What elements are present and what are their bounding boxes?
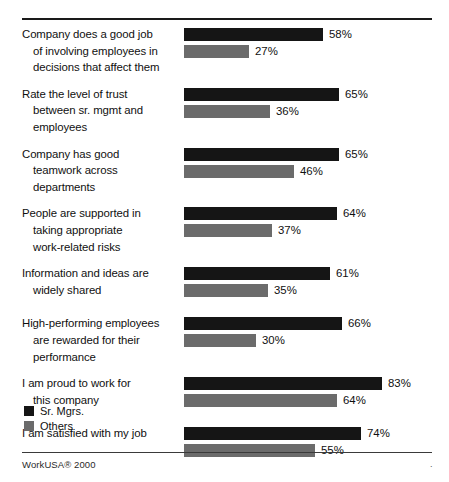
bar-row: 30%: [184, 334, 449, 347]
bar-value-label: 66%: [348, 315, 371, 331]
top-divider-rule: [22, 18, 432, 20]
legend-item[interactable]: Sr. Mgrs.: [24, 404, 84, 419]
bottom-divider-rule: [22, 452, 432, 453]
bar-sr-mgrs: [184, 267, 330, 280]
bar-sr-mgrs: [184, 207, 337, 220]
legend-item-label: Sr. Mgrs.: [40, 404, 84, 419]
bar-value-label: 64%: [343, 205, 366, 221]
bar-sr-mgrs: [184, 28, 323, 41]
bar-group-label-line: between sr. mgmt and: [22, 102, 180, 119]
bar-value-label: 36%: [276, 103, 299, 119]
bar-row: 58%: [184, 28, 449, 41]
bar-value-label: 58%: [329, 26, 352, 42]
bar-group-label-line: Company has good: [22, 146, 180, 163]
bar-others: [184, 45, 249, 58]
bar-value-label: 55%: [321, 442, 344, 458]
bar-group-label-line: decisions that affect them: [22, 59, 180, 76]
bar-sr-mgrs: [184, 377, 382, 390]
bar-group-label-line: are rewarded for their: [22, 332, 180, 349]
bar-group-label-line: People are supported in: [22, 205, 180, 222]
bar-others: [184, 284, 268, 297]
bar-others: [184, 444, 315, 457]
legend-swatch-icon: [24, 421, 34, 431]
bar-group-label-line: taking appropriate: [22, 222, 180, 239]
source-note: WorkUSA® 2000: [22, 459, 96, 470]
bar-value-label: 61%: [336, 265, 359, 281]
bar-row: 64%: [184, 207, 449, 220]
bar-row: 74%: [184, 427, 449, 440]
bar-row: 66%: [184, 317, 449, 330]
bar-others: [184, 224, 272, 237]
bar-group-label: People are supported intaking appropriat…: [22, 205, 180, 255]
bar-row: 83%: [184, 377, 449, 390]
bar-group-label-line: Company does a good job: [22, 26, 180, 43]
bar-row: 65%: [184, 88, 449, 101]
bar-others: [184, 105, 270, 118]
bar-group-label: Company does a good jobof involving empl…: [22, 26, 180, 76]
bar-value-label: 46%: [300, 163, 323, 179]
bar-group-label: Company has goodteamwork acrossdepartmen…: [22, 146, 180, 196]
bar-value-label: 65%: [345, 86, 368, 102]
bar-group-label-line: Rate the level of trust: [22, 86, 180, 103]
bar-value-label: 35%: [274, 282, 297, 298]
bar-value-label: 30%: [262, 332, 285, 348]
legend-item[interactable]: Others: [24, 419, 84, 434]
bar-sr-mgrs: [184, 148, 339, 161]
bar-row: 37%: [184, 224, 449, 237]
legend-swatch-icon: [24, 406, 34, 416]
bar-row: 55%: [184, 444, 449, 457]
bar-sr-mgrs: [184, 88, 339, 101]
bar-row: 64%: [184, 394, 449, 407]
bar-group-label-line: performance: [22, 349, 180, 366]
bar-value-label: 64%: [343, 392, 366, 408]
bar-others: [184, 165, 294, 178]
bar-group-label: Rate the level of trustbetween sr. mgmt …: [22, 86, 180, 136]
bar-row: 65%: [184, 148, 449, 161]
bar-group-label-line: departments: [22, 179, 180, 196]
bar-row: 35%: [184, 284, 449, 297]
bar-sr-mgrs: [184, 427, 361, 440]
bar-group-label-line: work-related risks: [22, 239, 180, 256]
legend-item-label: Others: [40, 419, 73, 434]
bar-others: [184, 334, 256, 347]
bar-sr-mgrs: [184, 317, 342, 330]
chart-figure: Company does a good jobof involving empl…: [0, 0, 449, 482]
bar-value-label: 83%: [388, 375, 411, 391]
bar-group-label-line: Information and ideas are: [22, 265, 180, 282]
bar-value-label: 37%: [278, 222, 301, 238]
bar-group-label: High-performing employeesare rewarded fo…: [22, 315, 180, 365]
bar-row: 46%: [184, 165, 449, 178]
bar-value-label: 74%: [367, 425, 390, 441]
bar-group-label-line: of involving employees in: [22, 43, 180, 60]
bar-row: 36%: [184, 105, 449, 118]
bar-group-label-line: teamwork across: [22, 162, 180, 179]
corner-mark: .: [430, 459, 433, 469]
bar-value-label: 65%: [345, 146, 368, 162]
chart-legend: Sr. Mgrs.Others: [24, 404, 84, 433]
bar-row: 61%: [184, 267, 449, 280]
bar-others: [184, 394, 337, 407]
bar-value-label: 27%: [255, 43, 278, 59]
bar-group-label-line: widely shared: [22, 282, 180, 299]
bar-group-label-line: I am proud to work for: [22, 375, 180, 392]
bar-group-label: Information and ideas arewidely shared: [22, 265, 180, 298]
bar-group-label-line: employees: [22, 119, 180, 136]
bar-group-label-line: High-performing employees: [22, 315, 180, 332]
bar-row: 27%: [184, 45, 449, 58]
